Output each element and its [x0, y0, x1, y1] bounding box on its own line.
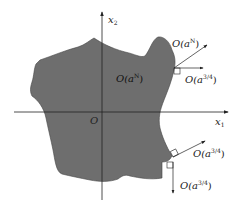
annotation-upper-horizontal: O(a3/4) [185, 74, 217, 85]
annotation-lower-normal: O(a3/4) [193, 148, 225, 159]
domain-region [31, 37, 176, 182]
origin-label: O [90, 116, 98, 126]
annotation-upper-normal: O(aN) [172, 38, 199, 49]
x2-axis-label: x2 [108, 15, 117, 26]
right-angle-marker-upper [174, 68, 180, 74]
x1-axis-label: x1 [215, 117, 224, 128]
right-angle-marker-lower [167, 162, 173, 168]
region-label: O(aN) [116, 73, 143, 84]
annotation-lower-vertical: O(a3/4) [180, 180, 212, 191]
